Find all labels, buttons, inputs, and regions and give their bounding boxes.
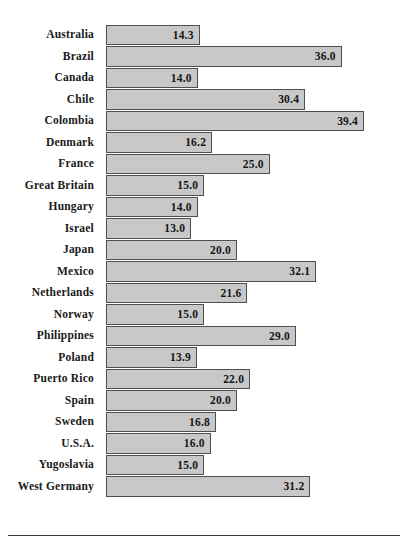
bar: 20.0	[106, 240, 237, 261]
category-label: Chile	[0, 89, 100, 111]
bar-value-label: 16.2	[185, 136, 211, 148]
bar-row: West Germany31.2	[0, 476, 408, 498]
bar-value-label: 29.0	[269, 330, 295, 342]
bar-value-label: 14.0	[171, 201, 197, 213]
bar: 16.2	[106, 132, 212, 153]
bar-track: 14.3	[106, 24, 408, 46]
category-label: Colombia	[0, 110, 100, 132]
bar-value-label: 25.0	[243, 158, 269, 170]
category-label: France	[0, 153, 100, 175]
bar-value-label: 14.3	[173, 29, 199, 41]
category-label: Poland	[0, 347, 100, 369]
category-label: Great Britain	[0, 175, 100, 197]
category-label: Sweden	[0, 411, 100, 433]
plot-area: Australia14.3Brazil36.0Canada14.0Chile30…	[0, 24, 408, 497]
bar-value-label: 22.0	[223, 373, 249, 385]
bar: 22.0	[106, 369, 250, 390]
bar-track: 25.0	[106, 153, 408, 175]
category-label: Spain	[0, 390, 100, 412]
bar-track: 22.0	[106, 368, 408, 390]
bar-track: 16.0	[106, 433, 408, 455]
bar-value-label: 15.0	[177, 308, 203, 320]
category-label: Philippines	[0, 325, 100, 347]
bar: 29.0	[106, 326, 296, 347]
bar-chart: Australia14.3Brazil36.0Canada14.0Chile30…	[0, 0, 408, 551]
bar-row: Chile30.4	[0, 89, 408, 111]
bar-value-label: 15.0	[177, 179, 203, 191]
bar-track: 16.8	[106, 411, 408, 433]
bar-value-label: 31.2	[283, 480, 309, 492]
bar-row: Norway15.0	[0, 304, 408, 326]
bar-row: Poland13.9	[0, 347, 408, 369]
bar: 14.0	[106, 197, 198, 218]
bar-value-label: 13.9	[170, 351, 196, 363]
bar-value-label: 30.4	[278, 93, 304, 105]
bar-row: Sweden16.8	[0, 411, 408, 433]
bar: 25.0	[106, 154, 270, 175]
bar: 20.0	[106, 390, 237, 411]
bar-track: 20.0	[106, 390, 408, 412]
bar-track: 20.0	[106, 239, 408, 261]
bar: 13.9	[106, 347, 197, 368]
bar-value-label: 20.0	[210, 244, 236, 256]
bar: 14.3	[106, 25, 200, 46]
bar-value-label: 13.0	[164, 222, 190, 234]
category-label: Canada	[0, 67, 100, 89]
bar-row: Canada14.0	[0, 67, 408, 89]
category-label: Mexico	[0, 261, 100, 283]
bar: 15.0	[106, 304, 204, 325]
bar-row: Mexico32.1	[0, 261, 408, 283]
bar-row: Spain20.0	[0, 390, 408, 412]
category-label: U.S.A.	[0, 433, 100, 455]
category-label: Brazil	[0, 46, 100, 68]
bar: 21.6	[106, 283, 247, 304]
bar-value-label: 16.0	[184, 437, 210, 449]
bar-row: Puerto Rico22.0	[0, 368, 408, 390]
bar-value-label: 14.0	[171, 72, 197, 84]
bar-track: 39.4	[106, 110, 408, 132]
bar-value-label: 21.6	[221, 287, 247, 299]
bar-track: 31.2	[106, 476, 408, 498]
category-label: Hungary	[0, 196, 100, 218]
category-label: Denmark	[0, 132, 100, 154]
bar-track: 21.6	[106, 282, 408, 304]
bar-track: 15.0	[106, 175, 408, 197]
bar-row: Great Britain15.0	[0, 175, 408, 197]
category-label: Israel	[0, 218, 100, 240]
bar-track: 30.4	[106, 89, 408, 111]
bar-row: Australia14.3	[0, 24, 408, 46]
bar-row: Israel13.0	[0, 218, 408, 240]
bar-value-label: 20.0	[210, 394, 236, 406]
bar-value-label: 36.0	[315, 50, 341, 62]
category-label: Netherlands	[0, 282, 100, 304]
bar-track: 36.0	[106, 46, 408, 68]
bar-row: Japan20.0	[0, 239, 408, 261]
category-label: Norway	[0, 304, 100, 326]
category-label: Yugoslavia	[0, 454, 100, 476]
bar-value-label: 32.1	[289, 265, 315, 277]
bar-track: 16.2	[106, 132, 408, 154]
bar-track: 29.0	[106, 325, 408, 347]
bar-row: Denmark16.2	[0, 132, 408, 154]
bar-track: 14.0	[106, 196, 408, 218]
category-label: Australia	[0, 24, 100, 46]
bar: 30.4	[106, 89, 305, 110]
bar-track: 15.0	[106, 304, 408, 326]
bar: 15.0	[106, 455, 204, 476]
category-label: West Germany	[0, 476, 100, 498]
bar-value-label: 16.8	[189, 416, 215, 428]
bar-track: 13.9	[106, 347, 408, 369]
bar-row: Netherlands21.6	[0, 282, 408, 304]
bar: 16.0	[106, 433, 211, 454]
bar: 39.4	[106, 111, 364, 132]
bar-row: U.S.A.16.0	[0, 433, 408, 455]
bar-row: Philippines29.0	[0, 325, 408, 347]
category-label: Japan	[0, 239, 100, 261]
bar-track: 15.0	[106, 454, 408, 476]
bar: 36.0	[106, 46, 342, 67]
bar-row: Colombia39.4	[0, 110, 408, 132]
bar: 14.0	[106, 68, 198, 89]
bar-row: France25.0	[0, 153, 408, 175]
bar: 16.8	[106, 412, 216, 433]
bar-track: 14.0	[106, 67, 408, 89]
